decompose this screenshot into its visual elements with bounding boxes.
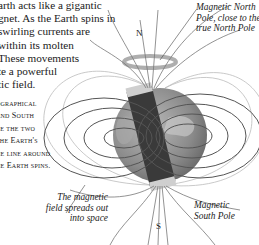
label-line: Magnetic	[194, 200, 235, 211]
label-magnetic-south: Magnetic South Pole	[194, 200, 235, 221]
intro-line: arth acts like a gigantic	[0, 0, 163, 12]
label-line: The magnetic	[38, 192, 108, 203]
label-line: Pole, close to the	[196, 13, 259, 24]
label-magnetic-north: Magnetic North Pole, close to the true N…	[196, 2, 259, 34]
side-note-line: ographical	[0, 98, 50, 110]
pole-n: N	[136, 28, 143, 38]
intro-line: gnet. As the Earth spins in	[0, 12, 163, 25]
side-note-line: he line around	[0, 148, 50, 160]
intro-line: tic field.	[0, 78, 163, 91]
side-note-line: and South	[0, 110, 50, 122]
intro-line: te a powerful	[0, 65, 163, 78]
label-line: field spreads out	[38, 203, 108, 214]
label-line: into space	[38, 213, 108, 224]
label-field-spreads: The magnetic field spreads out into spac…	[38, 192, 108, 224]
intro-line: within its molten	[0, 39, 163, 52]
label-line: Magnetic North	[196, 2, 259, 13]
leader-north	[160, 10, 196, 60]
intro-line: These movements	[0, 52, 163, 65]
label-line: South Pole	[194, 211, 235, 222]
intro-paragraph: arth acts like a gigantic gnet. As the E…	[0, 0, 163, 91]
side-note-line: the Earth's	[0, 135, 50, 147]
side-note-line: he Earth spins.	[0, 160, 50, 172]
pole-s: S	[156, 221, 161, 231]
side-note-line: re the two	[0, 123, 50, 135]
label-line: true North Pole	[196, 23, 259, 34]
side-note: ographical and South re the two the Eart…	[0, 98, 50, 172]
